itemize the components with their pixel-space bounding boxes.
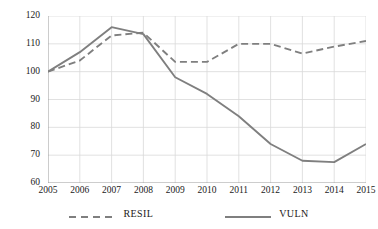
line-chart: 60708090100110120 2005200620072008200920… [0, 0, 378, 229]
x-tick-label: 2014 [325, 186, 344, 196]
grid-lines [48, 16, 366, 183]
y-tick-label: 100 [26, 67, 40, 77]
chart-legend: RESILVULN [0, 202, 378, 224]
legend-label: VULN [279, 208, 308, 219]
x-tick-label: 2006 [70, 186, 89, 196]
x-tick-label: 2009 [166, 186, 185, 196]
x-tick-label: 2010 [198, 186, 217, 196]
x-tick-label: 2011 [229, 186, 248, 196]
plot-svg [48, 16, 366, 183]
plot-area [48, 16, 366, 183]
y-tick-label: 90 [31, 95, 41, 105]
y-tick-label: 80 [31, 122, 41, 132]
x-axis-tick-labels: 2005200620072008200920102011201220132014… [48, 186, 366, 202]
x-tick-label: 2008 [134, 186, 153, 196]
legend-swatch-dashed [69, 208, 115, 218]
legend-item-vuln[interactable]: VULN [225, 208, 308, 219]
legend-swatch-solid [225, 208, 271, 218]
y-tick-label: 120 [26, 11, 40, 21]
legend-item-resil[interactable]: RESIL [69, 208, 153, 219]
y-tick-label: 70 [31, 150, 41, 160]
x-tick-label: 2007 [102, 186, 121, 196]
x-tick-label: 2005 [39, 186, 58, 196]
x-tick-label: 2015 [357, 186, 376, 196]
x-tick-label: 2013 [293, 186, 312, 196]
y-axis-tick-labels: 60708090100110120 [0, 0, 46, 199]
x-tick-label: 2012 [261, 186, 280, 196]
y-tick-label: 110 [26, 39, 40, 49]
legend-label: RESIL [123, 208, 153, 219]
